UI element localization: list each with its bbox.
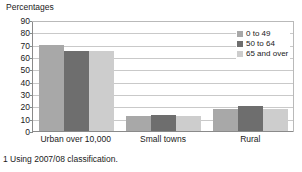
x-axis-label: Small towns	[119, 134, 206, 145]
chart-legend: 0 to 4950 to 6465 and over	[236, 28, 290, 59]
legend-label: 0 to 49	[246, 29, 270, 38]
bar[interactable]	[126, 116, 151, 131]
bar[interactable]	[176, 116, 201, 131]
y-tick-label: 30	[21, 91, 30, 100]
legend-swatch-icon	[237, 31, 243, 37]
bar[interactable]	[151, 115, 176, 131]
y-tick-label: 40	[21, 78, 30, 87]
x-axis-label: Urban over 10,000	[32, 134, 119, 145]
bar[interactable]	[39, 45, 64, 131]
y-tick-label: 90	[21, 17, 30, 26]
y-axis-title: Percentages	[6, 2, 54, 12]
bar-chart-figure: Percentages 0102030405060708090 Urban ov…	[0, 0, 302, 172]
legend-label: 50 to 64	[246, 39, 275, 48]
bar[interactable]	[263, 109, 288, 131]
x-axis-labels: Urban over 10,000Small townsRural	[32, 134, 294, 145]
y-tick-label: 50	[21, 66, 30, 75]
legend-swatch-icon	[237, 41, 243, 47]
y-tick-label: 80	[21, 29, 30, 38]
y-tick-label: 70	[21, 41, 30, 50]
legend-item[interactable]: 50 to 64	[237, 39, 288, 48]
y-tick-label: 10	[21, 115, 30, 124]
bar-group	[120, 21, 207, 131]
bar[interactable]	[89, 51, 114, 131]
y-tick-label: 0	[25, 128, 30, 137]
bar-group	[33, 21, 120, 131]
bar[interactable]	[64, 51, 89, 131]
chart-footnote: 1 Using 2007/08 classification.	[3, 154, 118, 165]
x-axis-label: Rural	[207, 134, 294, 145]
legend-label: 65 and over	[246, 49, 288, 58]
y-tick-mark	[30, 132, 33, 133]
bar[interactable]	[238, 106, 263, 131]
y-tick-label: 60	[21, 54, 30, 63]
y-tick-label: 20	[21, 103, 30, 112]
legend-swatch-icon	[237, 51, 243, 57]
legend-item[interactable]: 0 to 49	[237, 29, 288, 38]
bar[interactable]	[213, 109, 238, 131]
legend-item[interactable]: 65 and over	[237, 49, 288, 58]
